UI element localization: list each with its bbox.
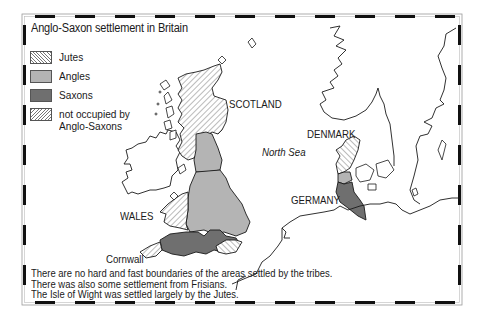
not-occupied-swatch-icon [30,108,52,121]
note-line-3: The Isle of Wight was settled largely by… [31,289,332,300]
saxons-swatch-icon [30,89,52,102]
legend-item-angles: Angles [30,70,140,89]
netherlands-coastline [282,228,290,238]
label-denmark: DENMARK [307,128,355,140]
jutes-swatch-icon [30,51,52,64]
sweden-coastline [410,28,456,204]
legend-label-angles: Angles [59,70,90,82]
legend-label-not-occupied: not occupied by Anglo-Saxons [59,108,130,132]
danish-islands [356,160,418,196]
isle-of-man-outline [178,164,186,174]
angles-swatch-icon [30,70,52,83]
legend-label-not-occupied-line2: Anglo-Saxons [59,120,130,132]
saxons-homeland-region [336,182,366,220]
legend-item-not-occupied: not occupied by Anglo-Saxons [30,108,140,136]
label-north-sea: North Sea [262,146,306,158]
map-title: Anglo-Saxon settlement in Britain [31,21,188,35]
label-scotland: SCOTLAND [229,98,282,110]
legend-item-saxons: Saxons [30,89,140,108]
note-line-1: There are no hard and fast boundaries of… [31,268,332,279]
baltic-island-outline [438,140,446,160]
map-legend: Jutes Angles Saxons not occupied by Angl… [30,51,140,136]
angles-region-north [194,132,222,172]
map-notes: There are no hard and fast boundaries of… [31,268,332,300]
label-wales: WALES [120,210,154,222]
legend-item-jutes: Jutes [30,51,140,70]
label-cornwall: Cornwall [106,253,144,265]
angles-region [186,170,250,236]
label-germany: GERMANY [291,194,340,206]
legend-label-not-occupied-line1: not occupied by [59,108,130,120]
legend-label-saxons: Saxons [59,89,93,101]
legend-label-jutes: Jutes [59,51,83,63]
